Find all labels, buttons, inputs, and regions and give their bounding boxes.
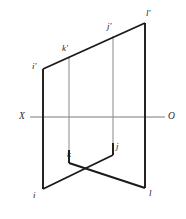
outline-edges-group	[43, 23, 145, 189]
vertex-label-j: j	[116, 142, 119, 151]
projection-diagram-svg	[0, 0, 186, 219]
vertex-label-k: k	[67, 150, 71, 159]
technical-drawing-canvas: i' k' j' l' i k j l X O	[0, 0, 186, 219]
vertex-label-i: i	[33, 191, 36, 200]
ground-line-label-o: O	[168, 112, 175, 122]
edge-i-j	[43, 155, 113, 189]
vertex-label-l-prime: l'	[146, 9, 150, 18]
ground-line-label-x: X	[19, 112, 25, 122]
edge-k-l	[69, 163, 145, 188]
vertex-label-k-prime: k'	[62, 44, 68, 53]
edge-i-prime-l-prime	[43, 23, 145, 69]
vertex-label-l: l	[149, 189, 152, 198]
vertex-label-j-prime: j'	[107, 22, 111, 31]
vertex-label-i-prime: i'	[32, 62, 36, 71]
